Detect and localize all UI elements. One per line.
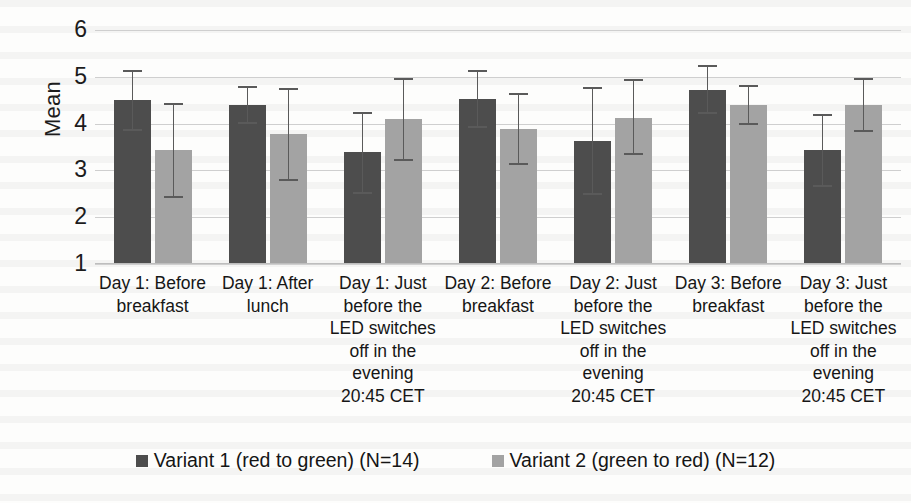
error-bar bbox=[633, 79, 634, 155]
error-bar-cap-top bbox=[164, 103, 183, 105]
error-bar-cap-bottom bbox=[394, 159, 413, 161]
error-bar-cap-top bbox=[509, 93, 528, 95]
error-bar bbox=[288, 88, 289, 181]
error-bar-cap-top bbox=[854, 78, 873, 80]
x-axis-category-label: Day 1: Just before the LED switches off … bbox=[325, 272, 440, 407]
y-axis-tick-label: 4 bbox=[47, 110, 87, 137]
error-bar bbox=[247, 86, 248, 123]
error-bar-cap-top bbox=[123, 70, 142, 72]
error-bar-cap-bottom bbox=[583, 193, 602, 195]
bar-slot bbox=[270, 30, 307, 264]
bar-slot bbox=[114, 30, 151, 264]
x-axis-category-label: Day 1: After lunch bbox=[210, 272, 325, 407]
bar[interactable] bbox=[229, 105, 266, 264]
error-bar-cap-top bbox=[468, 70, 487, 72]
error-bar-cap-bottom bbox=[509, 163, 528, 165]
error-bar bbox=[863, 78, 864, 132]
x-axis-category-label: Day 2: Just before the LED switches off … bbox=[556, 272, 671, 407]
x-axis-category-labels: Day 1: Before breakfastDay 1: After lunc… bbox=[95, 272, 901, 407]
chart-legend: Variant 1 (red to green) (N=14)Variant 2… bbox=[0, 449, 911, 472]
bar-group bbox=[671, 30, 786, 264]
legend-label: Variant 1 (red to green) (N=14) bbox=[154, 449, 420, 472]
y-axis-tick-label: 5 bbox=[47, 63, 87, 90]
error-bar-cap-bottom bbox=[238, 122, 257, 124]
error-bar-cap-bottom bbox=[353, 192, 372, 194]
bar-group bbox=[325, 30, 440, 264]
bar-slot bbox=[344, 30, 381, 264]
error-bar-cap-top bbox=[624, 79, 643, 81]
bar-group bbox=[95, 30, 210, 264]
y-axis-tick-label: 2 bbox=[47, 203, 87, 230]
plot-area bbox=[95, 30, 901, 264]
bar-group bbox=[556, 30, 671, 264]
bar-groups bbox=[95, 30, 901, 264]
error-bar bbox=[707, 65, 708, 114]
error-bar-cap-bottom bbox=[279, 179, 298, 181]
x-axis-category-label: Day 3: Just before the LED switches off … bbox=[786, 272, 901, 407]
bar-chart: Mean 654321 Day 1: Before breakfastDay 1… bbox=[0, 0, 911, 503]
error-bar-cap-bottom bbox=[698, 112, 717, 114]
bar-slot bbox=[845, 30, 882, 264]
error-bar-cap-bottom bbox=[123, 129, 142, 131]
x-axis-category-label: Day 2: Before breakfast bbox=[440, 272, 555, 407]
y-axis-tick-label: 6 bbox=[47, 16, 87, 43]
bar-group-bars bbox=[325, 30, 440, 264]
bar-group bbox=[210, 30, 325, 264]
bar-slot bbox=[459, 30, 496, 264]
x-axis-category-label: Day 3: Before breakfast bbox=[671, 272, 786, 407]
error-bar-cap-top bbox=[279, 88, 298, 90]
legend-label: Variant 2 (green to red) (N=12) bbox=[510, 449, 776, 472]
bar-slot bbox=[574, 30, 611, 264]
bar-group bbox=[786, 30, 901, 264]
bar-slot bbox=[730, 30, 767, 264]
y-axis-tick-label: 1 bbox=[47, 250, 87, 277]
x-axis-category-label: Day 1: Before breakfast bbox=[95, 272, 210, 407]
error-bar bbox=[362, 112, 363, 194]
gridline bbox=[95, 264, 901, 265]
error-bar-cap-top bbox=[583, 87, 602, 89]
error-bar-cap-top bbox=[813, 114, 832, 116]
bar-slot bbox=[615, 30, 652, 264]
bar[interactable] bbox=[730, 105, 767, 264]
error-bar-cap-bottom bbox=[739, 123, 758, 125]
error-bar-cap-bottom bbox=[854, 130, 873, 132]
error-bar-cap-top bbox=[394, 78, 413, 80]
bar-group-bars bbox=[786, 30, 901, 264]
error-bar bbox=[822, 114, 823, 187]
error-bar-cap-bottom bbox=[624, 153, 643, 155]
error-bar-cap-top bbox=[353, 112, 372, 114]
error-bar bbox=[173, 103, 174, 198]
bar-slot bbox=[385, 30, 422, 264]
x-axis-baseline bbox=[95, 263, 901, 264]
error-bar-cap-bottom bbox=[164, 196, 183, 198]
bar[interactable] bbox=[689, 90, 726, 264]
error-bar bbox=[403, 78, 404, 161]
bar-slot bbox=[229, 30, 266, 264]
error-bar bbox=[132, 70, 133, 131]
error-bar-cap-bottom bbox=[468, 126, 487, 128]
legend-item[interactable]: Variant 1 (red to green) (N=14) bbox=[136, 449, 420, 472]
bar-slot bbox=[804, 30, 841, 264]
bar-group bbox=[440, 30, 555, 264]
bar-group-bars bbox=[556, 30, 671, 264]
error-bar-cap-top bbox=[739, 85, 758, 87]
legend-swatch-icon bbox=[136, 455, 148, 467]
error-bar bbox=[748, 85, 749, 124]
error-bar bbox=[477, 70, 478, 129]
bar-slot bbox=[689, 30, 726, 264]
error-bar-cap-bottom bbox=[813, 185, 832, 187]
bar-slot bbox=[155, 30, 192, 264]
error-bar-cap-top bbox=[698, 65, 717, 67]
bar-group-bars bbox=[95, 30, 210, 264]
bar-group-bars bbox=[671, 30, 786, 264]
error-bar bbox=[518, 93, 519, 165]
bar-slot bbox=[500, 30, 537, 264]
y-axis-tick-label: 3 bbox=[47, 156, 87, 183]
bar-group-bars bbox=[440, 30, 555, 264]
bar-group-bars bbox=[210, 30, 325, 264]
legend-item[interactable]: Variant 2 (green to red) (N=12) bbox=[492, 449, 776, 472]
error-bar-cap-top bbox=[238, 86, 257, 88]
legend-swatch-icon bbox=[492, 455, 504, 467]
error-bar bbox=[592, 87, 593, 195]
